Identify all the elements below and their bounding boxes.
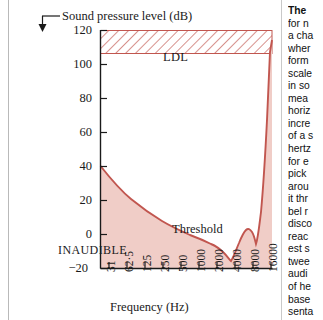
y-tick-label-60: 60 [58, 125, 92, 140]
x-tick-label-31: 31 [105, 261, 117, 273]
caption-line: a cha [288, 30, 323, 43]
caption-line: twee [288, 256, 323, 269]
caption-line: wher [288, 43, 323, 56]
caption-line: bel r [288, 206, 323, 219]
figure-root: Sound pressure level (dB) 120 100 80 60 … [0, 0, 323, 320]
caption-line: of a s [288, 130, 323, 143]
y-tick-label-20: 20 [58, 193, 92, 208]
threshold-curve-label: Threshold [172, 222, 223, 237]
caption-line: scale [288, 68, 323, 81]
caption-line: in so [288, 80, 323, 93]
ldl-region-label: LDL [163, 50, 188, 65]
caption-line: The [288, 5, 323, 18]
y-tick-label-80: 80 [58, 91, 92, 106]
caption-line: for n [288, 18, 323, 31]
y-tick-label-minus20: −20 [54, 261, 88, 276]
y-tick-label-40: 40 [58, 159, 92, 174]
caption-line: pick [288, 168, 323, 181]
inaudible-region-label: INAUDIBLE [58, 243, 127, 258]
y-tick-label-0: 0 [58, 227, 92, 242]
caption-line: mea [288, 93, 323, 106]
caption-line: reac [288, 231, 323, 244]
caption-line: audi [288, 268, 323, 281]
x-tick-label-125: 125 [141, 255, 153, 272]
caption-line: est s [288, 243, 323, 256]
caption-line: for e [288, 156, 323, 169]
caption-line: it thr [288, 193, 323, 206]
x-tick-label-4000: 4000 [231, 249, 243, 272]
x-tick-label-16000: 16000 [267, 243, 279, 272]
caption-line: arou [288, 181, 323, 194]
caption-line: horiz [288, 105, 323, 118]
audiogram-plot: Sound pressure level (dB) 120 100 80 60 … [0, 0, 281, 320]
x-axis-title: Frequency (Hz) [110, 300, 189, 315]
y-axis-title: Sound pressure level (dB) [62, 9, 192, 24]
caption-column: The for n a cha wher form scale in so me… [288, 5, 323, 317]
caption-line: hertz [288, 143, 323, 156]
caption-line: disco [288, 218, 323, 231]
column-divider-rule [281, 0, 282, 320]
y-tick-label-100: 100 [58, 57, 92, 72]
x-tick-label-500: 500 [177, 255, 189, 272]
x-tick-label-1000: 1000 [195, 249, 207, 272]
y-axis-leader-arrow [39, 16, 61, 32]
caption-line: incre [288, 118, 323, 131]
y-tick-label-120: 120 [58, 23, 92, 38]
x-tick-label-2000: 2000 [213, 249, 225, 272]
caption-line: of he [288, 281, 323, 294]
caption-line: form [288, 55, 323, 68]
caption-line: senta [288, 306, 323, 317]
plot-svg [0, 0, 281, 320]
x-tick-label-250: 250 [159, 255, 171, 272]
caption-line: base [288, 294, 323, 307]
x-tick-label-8000: 8000 [249, 249, 261, 272]
